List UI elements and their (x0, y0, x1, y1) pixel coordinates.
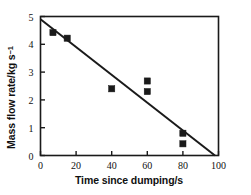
chart-figure: Mass flow rate/kg s−1 Time since dumping… (0, 0, 251, 195)
data-point-marker (144, 78, 150, 84)
data-point-marker (144, 88, 150, 94)
y-tick-label: 0 (0, 150, 34, 161)
data-point-marker (109, 86, 115, 92)
x-tick-label: 40 (107, 160, 117, 171)
x-tick-label: 60 (142, 160, 152, 171)
data-points (50, 30, 186, 147)
data-point-marker (180, 130, 186, 136)
data-point-marker (64, 35, 70, 41)
x-tick-label: 80 (178, 160, 188, 171)
x-tick-label: 100 (211, 160, 226, 171)
y-tick-label: 3 (0, 67, 34, 78)
y-tick-label: 5 (0, 11, 34, 22)
y-tick-label: 4 (0, 39, 34, 50)
data-point-marker (50, 30, 56, 36)
y-tick-label: 2 (0, 94, 34, 105)
x-tick-label: 0 (38, 160, 43, 171)
x-tick-label: 20 (71, 160, 81, 171)
data-point-marker (180, 141, 186, 147)
y-tick-label: 1 (0, 122, 34, 133)
